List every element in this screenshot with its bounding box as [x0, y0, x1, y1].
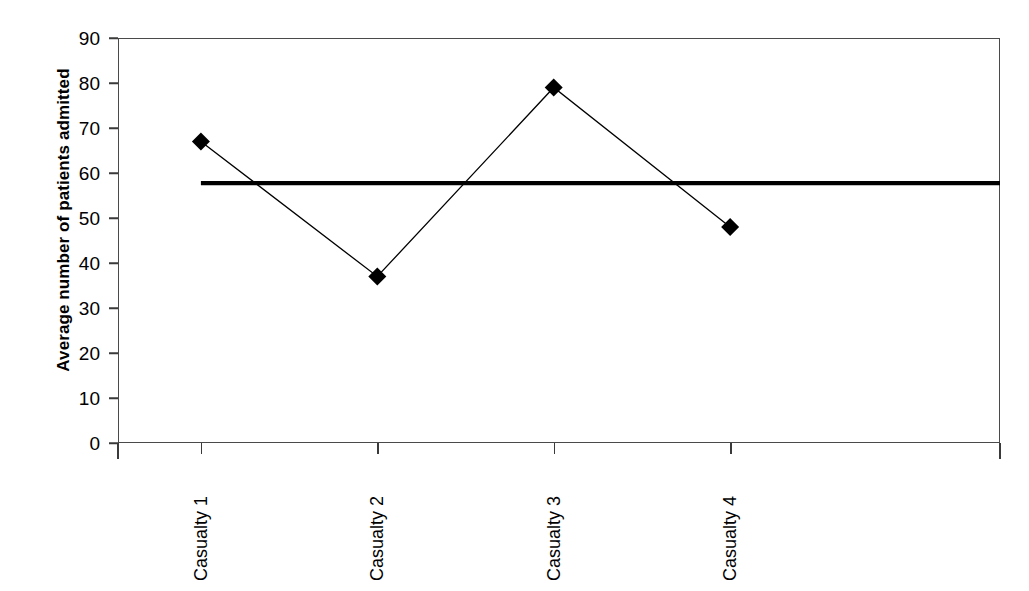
x-tick-label: Casualty 2: [366, 431, 388, 581]
data-point-marker: [721, 218, 739, 236]
x-tick-label: Casualty 1: [190, 431, 212, 581]
data-point-marker: [192, 133, 210, 151]
x-tick-label: Casualty 4: [719, 431, 741, 581]
x-tick-label: Casualty 3: [543, 431, 565, 581]
chart-root: Average number of patients admitted 0102…: [0, 0, 1029, 591]
data-series-layer: [0, 0, 1029, 591]
